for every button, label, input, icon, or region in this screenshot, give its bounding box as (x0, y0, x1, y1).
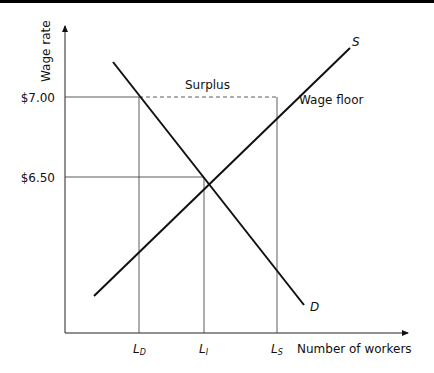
wage-floor-label: Wage floor (299, 93, 364, 107)
supply-label: S (352, 35, 360, 49)
y-tick-650: $6.50 (21, 171, 55, 185)
demand-curve (113, 62, 304, 305)
x-tick-ls: LS (271, 342, 283, 357)
wage-floor-diagram: Wage rate $7.00 $6.50 LD LI LS Number of… (0, 0, 434, 373)
x-tick-ld: LD (133, 342, 146, 357)
y-axis-label: Wage rate (39, 20, 53, 82)
x-tick-li: LI (199, 342, 209, 357)
y-tick-700: $7.00 (21, 91, 55, 105)
surplus-label: Surplus (185, 78, 230, 92)
x-axis-label: Number of workers (297, 342, 412, 356)
demand-label: D (310, 300, 319, 314)
